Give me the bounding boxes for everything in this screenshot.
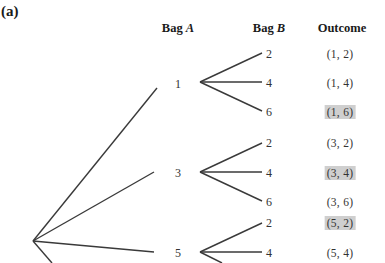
branch-5-2 (200, 223, 262, 252)
branch-root-continued (33, 241, 52, 263)
branch-root-1 (33, 88, 157, 241)
branch-1-2 (200, 53, 262, 82)
outcome-item: (5, 4) (325, 246, 356, 260)
branch-3-6 (200, 172, 262, 201)
outcome-item: (3, 6) (325, 195, 356, 209)
branch-root-5 (33, 241, 154, 252)
bag-b-node: 4 (266, 76, 272, 91)
outcome-item: (1, 2) (325, 47, 356, 61)
outcome-item-highlighted: (3, 4) (325, 166, 356, 180)
outcome-item: (1, 4) (325, 76, 356, 90)
bag-b-node: 2 (266, 136, 272, 151)
bag-b-node: 4 (266, 246, 272, 261)
branch-3-2 (200, 143, 262, 172)
branch-1-6 (200, 82, 262, 111)
bag-b-node: 6 (266, 195, 272, 210)
bag-b-node: 6 (266, 105, 272, 120)
branch-root-3 (33, 172, 154, 241)
bag-a-node: 3 (175, 166, 181, 181)
bag-b-node: 2 (266, 47, 272, 62)
outcome-item-highlighted: (1, 6) (325, 105, 356, 119)
outcome-item-highlighted: (5, 2) (325, 216, 356, 230)
bag-a-node: 1 (175, 77, 181, 92)
bag-b-node: 2 (266, 216, 272, 231)
bag-b-node: 4 (266, 166, 272, 181)
outcome-item: (3, 2) (325, 136, 356, 150)
branch-5-6 (200, 252, 222, 263)
bag-a-node: 5 (175, 246, 181, 261)
